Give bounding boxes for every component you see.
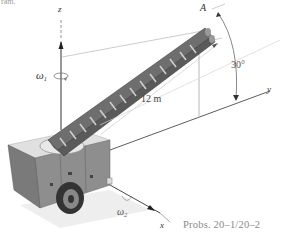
x-axis-label: x xyxy=(160,220,164,230)
figure-caption: Probs. 20–1/20–2 xyxy=(183,219,260,230)
z-axis-label: z xyxy=(58,4,62,14)
omega1-label: ω1 xyxy=(36,69,47,81)
omega1-symbol: ω xyxy=(36,69,44,81)
omega2-label: ω2 xyxy=(117,206,127,217)
omega2-subscript: 2 xyxy=(124,211,127,218)
ladder-truck-figure: ram. z ω1 A 30° 12 m y x ω2 Probs. 20–1/… xyxy=(0,0,283,233)
y-axis-label: y xyxy=(267,84,271,94)
cut-header-text: ram. xyxy=(1,0,15,6)
omega1-subscript: 1 xyxy=(44,75,47,82)
angle-arc xyxy=(218,13,237,99)
figure-drawing xyxy=(0,0,283,233)
ladder xyxy=(48,28,215,156)
point-a-label: A xyxy=(200,2,206,13)
angle-label: 30° xyxy=(231,59,245,70)
length-label: 12 m xyxy=(141,93,161,104)
z-axis-arrowhead xyxy=(59,41,64,49)
omega2-symbol: ω xyxy=(117,206,124,217)
length-dimension-line xyxy=(100,44,218,135)
